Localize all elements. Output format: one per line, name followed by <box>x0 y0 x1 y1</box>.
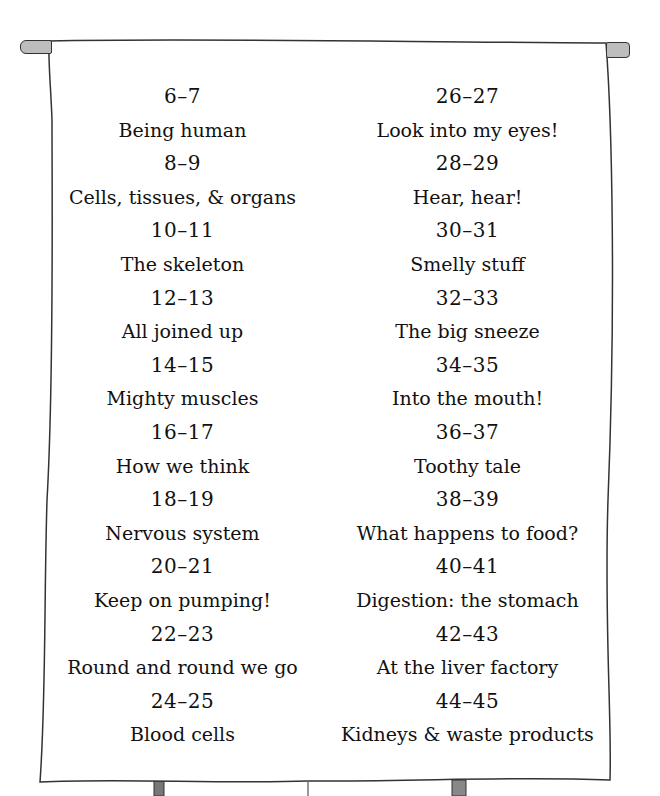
chapter-title: The big sneeze <box>395 315 539 349</box>
right-stand-leg <box>452 780 466 796</box>
chapter-title: The skeleton <box>121 248 244 282</box>
chapter-title: Kidneys & waste products <box>341 718 594 752</box>
chapter-title: Look into my eyes! <box>377 114 559 148</box>
left-stand-leg <box>154 780 164 796</box>
chapter-title: Nervous system <box>105 517 259 551</box>
scroll-rod-right-end <box>606 42 630 58</box>
page-range: 26–27 <box>436 80 499 114</box>
contents-entry: 24–25Blood cells <box>130 685 235 752</box>
contents-entry: 16–17How we think <box>116 416 250 483</box>
chapter-title: Cells, tissues, & organs <box>69 181 296 215</box>
page-range: 42–43 <box>436 618 499 652</box>
page-range: 16–17 <box>151 416 214 450</box>
contents-entry: 44–45Kidneys & waste products <box>341 685 594 752</box>
contents-entry: 8–9Cells, tissues, & organs <box>69 147 296 214</box>
contents-entry: 20–21Keep on pumping! <box>94 550 271 617</box>
contents-entry: 34–35Into the mouth! <box>392 349 543 416</box>
page-range: 36–37 <box>436 416 499 450</box>
page-range: 40–41 <box>436 550 499 584</box>
contents-left-column: 6–7Being human 8–9Cells, tissues, & orga… <box>50 80 315 752</box>
chapter-title: Round and round we go <box>67 651 298 685</box>
contents-entry: 10–11The skeleton <box>121 214 244 281</box>
contents-entry: 14–15Mighty muscles <box>106 349 258 416</box>
chapter-title: What happens to food? <box>357 517 578 551</box>
chapter-title: Smelly stuff <box>410 248 524 282</box>
contents-entry: 36–37Toothy tale <box>414 416 521 483</box>
chapter-title: Digestion: the stomach <box>356 584 579 618</box>
page-range: 28–29 <box>436 147 499 181</box>
chapter-title: How we think <box>116 450 250 484</box>
page-range: 24–25 <box>151 685 214 719</box>
page-range: 44–45 <box>436 685 499 719</box>
chapter-title: Into the mouth! <box>392 382 543 416</box>
page-range: 38–39 <box>436 483 499 517</box>
chapter-title: Hear, hear! <box>413 181 523 215</box>
page-range: 6–7 <box>164 80 201 114</box>
chapter-title: Being human <box>119 114 247 148</box>
contents-entry: 38–39What happens to food? <box>357 483 578 550</box>
contents-entry: 40–41Digestion: the stomach <box>356 550 579 617</box>
chapter-title: All joined up <box>122 315 243 349</box>
page-range: 34–35 <box>436 349 499 383</box>
contents-right-column: 26–27Look into my eyes! 28–29Hear, hear!… <box>335 80 600 752</box>
page-range: 20–21 <box>151 550 214 584</box>
contents-entry: 12–13All joined up <box>122 282 243 349</box>
chapter-title: Mighty muscles <box>106 382 258 416</box>
page-range: 32–33 <box>436 282 499 316</box>
contents-entry: 6–7Being human <box>119 80 247 147</box>
contents-entry: 22–23Round and round we go <box>67 618 298 685</box>
chapter-title: At the liver factory <box>377 651 558 685</box>
chapter-title: Toothy tale <box>414 450 521 484</box>
page-range: 30–31 <box>436 214 499 248</box>
chapter-title: Blood cells <box>130 718 235 752</box>
page-range: 22–23 <box>151 618 214 652</box>
chapter-title: Keep on pumping! <box>94 584 271 618</box>
page-range: 14–15 <box>151 349 214 383</box>
page-range: 12–13 <box>151 282 214 316</box>
contents-entry: 30–31Smelly stuff <box>410 214 524 281</box>
scroll-rod-left-end <box>20 40 52 54</box>
contents-entry: 18–19Nervous system <box>105 483 259 550</box>
page-range: 18–19 <box>151 483 214 517</box>
contents-entry: 42–43At the liver factory <box>377 618 558 685</box>
contents-entry: 32–33The big sneeze <box>395 282 539 349</box>
contents-entry: 28–29Hear, hear! <box>413 147 523 214</box>
table-of-contents: 6–7Being human 8–9Cells, tissues, & orga… <box>60 80 600 752</box>
contents-entry: 26–27Look into my eyes! <box>377 80 559 147</box>
page-range: 10–11 <box>151 214 214 248</box>
page-range: 8–9 <box>164 147 201 181</box>
